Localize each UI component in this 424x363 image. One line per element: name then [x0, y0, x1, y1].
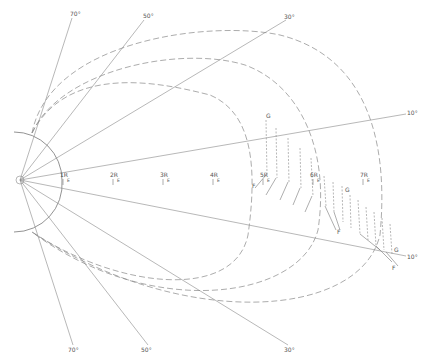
svg-text:F: F	[252, 182, 256, 189]
svg-text:30°: 30°	[284, 13, 295, 20]
svg-text:10°: 10°	[407, 253, 418, 260]
svg-text:6R: 6R	[310, 171, 318, 178]
svg-text:E: E	[167, 178, 170, 183]
solid-vectors	[255, 175, 398, 266]
svg-text:2R: 2R	[110, 171, 118, 178]
vector-series	[266, 120, 392, 254]
svg-text:70°: 70°	[68, 346, 79, 353]
svg-text:E: E	[317, 178, 320, 183]
svg-text:E: E	[217, 178, 220, 183]
svg-text:5R: 5R	[260, 171, 268, 178]
svg-text:70°: 70°	[70, 10, 81, 17]
svg-text:1R: 1R	[60, 171, 68, 178]
svg-text:G: G	[345, 186, 350, 193]
svg-text:E: E	[267, 178, 270, 183]
svg-text:F: F	[392, 264, 396, 271]
svg-text:G: G	[394, 246, 399, 253]
svg-text:F: F	[337, 228, 341, 235]
svg-text:4R: 4R	[210, 171, 218, 178]
svg-text:7R: 7R	[360, 171, 368, 178]
svg-text:E: E	[367, 178, 370, 183]
svg-text:10°: 10°	[407, 109, 418, 116]
latitude-labels: 70° 50° 30° 10° 10° 30° 50° 70°	[68, 10, 418, 353]
svg-text:E: E	[117, 178, 120, 183]
field-lines	[32, 30, 382, 302]
svg-text:G: G	[266, 112, 271, 119]
radial-markers: 1RE 2RE 3RE 4RE 5RE 6RE 7RE	[60, 171, 370, 185]
svg-text:E: E	[67, 178, 70, 183]
polar-diagram: 1RE 2RE 3RE 4RE 5RE 6RE 7RE 70° 50° 30° …	[0, 0, 424, 363]
svg-text:30°: 30°	[284, 346, 295, 353]
svg-text:50°: 50°	[143, 12, 154, 19]
svg-text:50°: 50°	[141, 346, 152, 353]
svg-text:3R: 3R	[160, 171, 168, 178]
